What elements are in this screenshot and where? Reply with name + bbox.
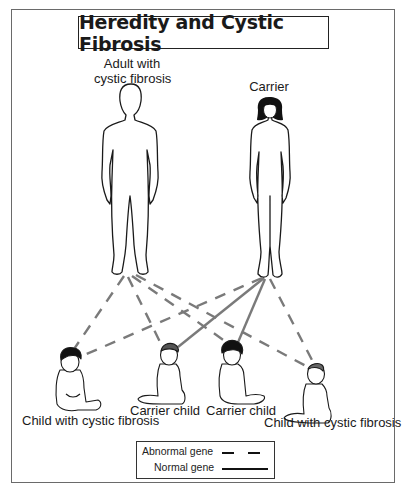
inheritance-lines — [72, 275, 313, 366]
mother-figure-icon — [250, 97, 290, 277]
father-to-child1-abnormal-line — [72, 276, 124, 352]
child2-label: Carrier child — [130, 403, 194, 418]
legend-box: Abnormal gene Normal gene — [136, 441, 275, 479]
child3-label: Carrier child — [206, 403, 270, 418]
child1-figure-icon — [56, 348, 101, 411]
mother-to-child4-abnormal-line — [270, 279, 313, 362]
child3-figure-icon — [219, 341, 264, 405]
father-to-child3-abnormal-line — [132, 276, 232, 346]
legend-normal-label: Normal gene — [154, 461, 214, 473]
legend-abnormal-label: Abnormal gene — [142, 445, 213, 457]
child4-label: Child with cystic fibrosis — [264, 415, 390, 430]
child2-figure-icon — [138, 343, 185, 404]
father-figure-icon — [102, 84, 158, 274]
solid-line-swatch-icon — [222, 467, 268, 471]
child1-label: Child with cystic fibrosis — [22, 413, 146, 428]
dashed-line-swatch-icon — [222, 451, 266, 455]
